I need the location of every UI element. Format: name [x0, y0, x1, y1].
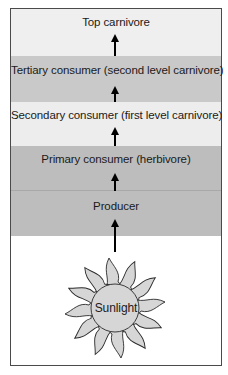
label-sunlight: Sunlight	[11, 301, 221, 315]
food-chain-diagram: Top carnivore Tertiary consumer (second …	[10, 8, 222, 366]
